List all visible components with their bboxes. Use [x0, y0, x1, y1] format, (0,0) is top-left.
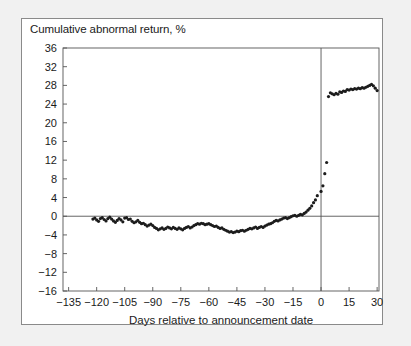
- data-point: [121, 220, 124, 223]
- x-tick-label: 30: [371, 296, 383, 308]
- y-tick-label: 24: [45, 98, 57, 110]
- y-tick-label: −16: [38, 285, 57, 297]
- x-tick-label: −105: [112, 296, 137, 308]
- plot-frame: [63, 48, 379, 291]
- x-tick-label: −45: [228, 296, 247, 308]
- data-point: [312, 201, 315, 204]
- y-tick-label: −4: [44, 229, 57, 241]
- x-tick-label: −60: [200, 296, 219, 308]
- data-point: [316, 194, 319, 197]
- y-tick-label: −8: [44, 248, 57, 260]
- x-tick-label: −75: [171, 296, 190, 308]
- x-tick-label: −15: [284, 296, 303, 308]
- y-tick-label: 20: [45, 117, 57, 129]
- x-tick-label: 0: [318, 296, 324, 308]
- data-point: [325, 161, 328, 164]
- y-tick-label: 0: [51, 210, 57, 222]
- data-point: [97, 220, 100, 223]
- data-point: [310, 204, 313, 207]
- y-tick-label: 36: [45, 42, 57, 54]
- data-point: [321, 184, 324, 187]
- y-tick-label: 8: [51, 173, 57, 185]
- chart-svg: 36322824201612840−4−8−12−16−135−120−105−…: [22, 19, 384, 326]
- y-tick-label: −12: [38, 266, 57, 278]
- data-point: [323, 172, 326, 175]
- x-tick-label: −30: [256, 296, 275, 308]
- data-point: [314, 198, 317, 201]
- x-tick-label: −90: [143, 296, 162, 308]
- y-tick-label: 4: [51, 192, 57, 204]
- data-series-cumulative-abnormal-return: [91, 83, 378, 234]
- y-tick-label: 32: [45, 61, 57, 73]
- y-tick-label: 16: [45, 135, 57, 147]
- data-point: [376, 89, 379, 92]
- x-axis-title: Days relative to announcement date: [129, 314, 313, 326]
- chart-figure: Cumulative abnormal return, % 3632282420…: [21, 18, 383, 325]
- x-tick-label: −135: [56, 296, 81, 308]
- plot-area: 36322824201612840−4−8−12−16−135−120−105−…: [22, 19, 384, 326]
- data-point: [319, 190, 322, 193]
- data-point: [327, 95, 330, 98]
- x-tick-label: 15: [343, 296, 355, 308]
- y-tick-label: 28: [45, 79, 57, 91]
- x-tick-label: −120: [84, 296, 109, 308]
- y-tick-label: 12: [45, 154, 57, 166]
